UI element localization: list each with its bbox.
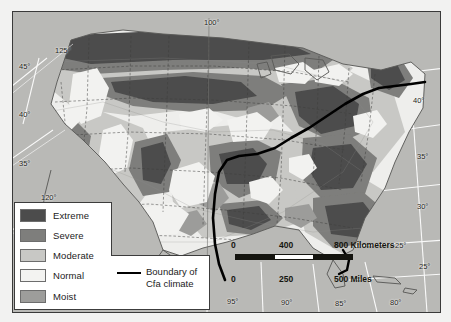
legend-label-cfa-boundary: Boundary of Cfa climate bbox=[146, 266, 197, 289]
graticule-label-left-45: 45° bbox=[19, 62, 30, 71]
scale-mi-labels: 0 250 500 Miles bbox=[231, 274, 373, 286]
legend-label-normal: Normal bbox=[53, 270, 84, 281]
legend-label-extreme: Extreme bbox=[53, 210, 89, 221]
graticule-label-bottom-95: 95° bbox=[227, 297, 238, 306]
map-frame: 100° 125° 45° 40° 35° 120° 40° 35° 30° 2… bbox=[12, 11, 441, 313]
scale-mi-500: 500 Miles bbox=[334, 274, 372, 284]
map-legend: Extreme Severe Moderate Normal Moist Bou… bbox=[14, 202, 210, 310]
scale-km-0: 0 bbox=[231, 240, 236, 250]
graticule-label-bottom-80: 80° bbox=[390, 298, 401, 307]
legend-item-moist[interactable]: Moist bbox=[20, 287, 76, 305]
legend-item-moderate[interactable]: Moderate bbox=[20, 246, 94, 264]
scale-mi-0: 0 bbox=[231, 274, 236, 284]
scale-km-800: 800 Kilometers bbox=[334, 240, 394, 250]
legend-swatch-moderate bbox=[20, 249, 46, 262]
legend-item-normal[interactable]: Normal bbox=[20, 266, 84, 284]
graticule-label-left-125: 125° bbox=[55, 46, 71, 55]
scale-bar: 0 400 800 Kilometers 0 250 500 Miles bbox=[231, 240, 373, 290]
scale-seg-3 bbox=[313, 255, 352, 259]
graticule-label-right-25b: 25° bbox=[419, 262, 430, 271]
legend-swatch-extreme bbox=[20, 209, 46, 222]
graticule-label-left-35: 35° bbox=[19, 159, 30, 168]
graticule-label-left-120: 120° bbox=[41, 193, 57, 202]
graticule-label-right-25: 25° bbox=[395, 241, 406, 250]
graticule-label-bottom-90: 90° bbox=[281, 298, 292, 307]
boundary-line-icon bbox=[117, 272, 141, 274]
legend-label-severe: Severe bbox=[53, 230, 84, 241]
graticule-label-top-100: 100° bbox=[204, 18, 220, 27]
scale-km-400: 400 bbox=[279, 240, 293, 250]
graticule-label-right-40: 40° bbox=[413, 96, 424, 105]
legend-swatch-moist bbox=[20, 290, 46, 303]
scale-bar-graphic bbox=[235, 254, 353, 260]
graticule-label-right-30: 30° bbox=[417, 202, 428, 211]
legend-label-moderate: Moderate bbox=[53, 250, 94, 261]
scale-km-labels: 0 400 800 Kilometers bbox=[231, 240, 373, 252]
scale-seg-1 bbox=[236, 255, 275, 259]
legend-item-severe[interactable]: Severe bbox=[20, 226, 84, 244]
legend-swatch-normal bbox=[20, 269, 46, 282]
legend-swatch-severe bbox=[20, 229, 46, 242]
legend-item-cfa-boundary[interactable]: Boundary of Cfa climate bbox=[117, 266, 209, 289]
map-page: 100° 125° 45° 40° 35° 120° 40° 35° 30° 2… bbox=[0, 0, 451, 322]
graticule-label-left-40: 40° bbox=[19, 110, 30, 119]
legend-item-extreme[interactable]: Extreme bbox=[20, 206, 89, 224]
legend-label-moist: Moist bbox=[53, 291, 76, 302]
graticule-label-right-35: 35° bbox=[417, 152, 428, 161]
scale-mi-250: 250 bbox=[279, 274, 293, 284]
graticule-label-bottom-85: 85° bbox=[335, 299, 346, 308]
scale-seg-2 bbox=[275, 255, 314, 259]
